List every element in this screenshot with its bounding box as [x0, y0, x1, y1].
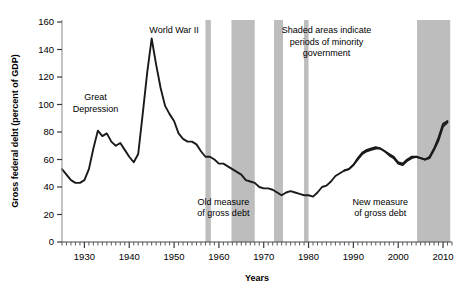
annotation-new-measure: New measure [353, 197, 409, 207]
debt-to-gdp-line-chart: 020406080100120140160 193019401950196019… [0, 0, 458, 295]
debt-series-lines [62, 39, 448, 197]
x-axis-ticks: 193019401950196019701980199020002010 [74, 242, 454, 262]
shaded-band [274, 20, 283, 242]
annotation-world-war-ii: World War II [149, 25, 199, 35]
y-tick-label: 20 [43, 209, 54, 220]
x-tick-label: 1990 [343, 251, 364, 262]
x-tick-label: 1980 [298, 251, 319, 262]
x-axis-title: Years [245, 273, 269, 283]
annotation-shaded-areas-note: periods of minority [290, 37, 364, 47]
annotation-new-measure: of gross debt [354, 208, 407, 218]
y-axis-title: Gross federal debt (percent of GDP) [10, 54, 20, 208]
annotation-old-measure: of gross debt [197, 208, 250, 218]
x-tick-label: 1940 [119, 251, 140, 262]
y-tick-label: 160 [38, 16, 54, 27]
y-tick-label: 140 [38, 44, 54, 55]
y-tick-label: 120 [38, 71, 54, 82]
x-tick-label: 1950 [163, 251, 184, 262]
annotation-great-depression: Great [84, 92, 107, 102]
x-tick-label: 1930 [74, 251, 95, 262]
annotation-shaded-areas-note: Shaded areas indicate [282, 25, 372, 35]
x-tick-label: 1960 [208, 251, 229, 262]
y-tick-label: 80 [43, 126, 54, 137]
x-tick-label: 2000 [388, 251, 409, 262]
x-tick-label: 2010 [432, 251, 453, 262]
y-tick-label: 100 [38, 99, 54, 110]
y-axis-ticks: 020406080100120140160 [38, 16, 62, 247]
shaded-band [417, 20, 450, 242]
annotation-old-measure: Old measure [198, 197, 250, 207]
y-tick-label: 0 [49, 236, 54, 247]
annotation-great-depression: Depression [73, 104, 119, 114]
chart-container: 020406080100120140160 193019401950196019… [0, 0, 458, 295]
annotation-shaded-areas-note: government [303, 48, 351, 58]
x-tick-label: 1970 [253, 251, 274, 262]
y-tick-label: 40 [43, 181, 54, 192]
y-tick-label: 60 [43, 154, 54, 165]
